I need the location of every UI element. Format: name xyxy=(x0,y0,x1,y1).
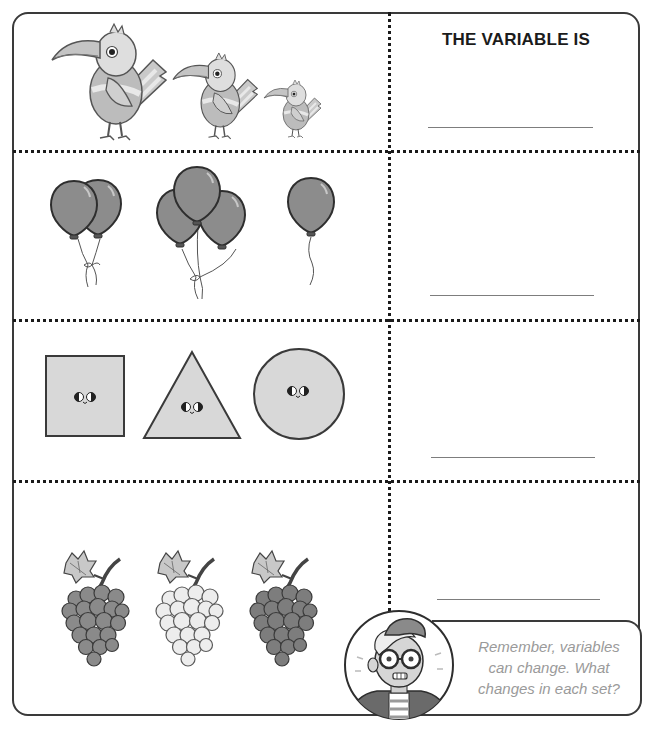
grapes-row-art xyxy=(50,545,330,675)
balloon-single-icon xyxy=(288,178,334,285)
avatar xyxy=(343,609,455,721)
column-divider xyxy=(388,12,391,612)
grape-bunch-dark-icon-2 xyxy=(250,551,317,666)
grape-bunch-light-icon xyxy=(156,551,223,666)
balloon-group-two-icon xyxy=(51,180,121,287)
balloon-group-three-icon xyxy=(157,167,245,299)
tip-line-2: can change. What xyxy=(454,657,644,678)
row-divider-2 xyxy=(13,319,640,322)
answer-line-balloons[interactable] xyxy=(430,295,594,296)
row-divider-3 xyxy=(13,480,640,483)
bird-medium-icon xyxy=(173,53,257,139)
triangle-shape-icon xyxy=(144,352,240,438)
row-divider-1 xyxy=(13,150,640,153)
birds-row-art xyxy=(40,18,370,143)
circle-shape-icon xyxy=(254,349,344,439)
answer-line-grapes[interactable] xyxy=(437,599,600,600)
square-shape-icon xyxy=(46,356,124,436)
tip-line-1: Remember, variables xyxy=(454,636,644,657)
bird-large-icon xyxy=(52,24,166,140)
grape-bunch-dark-icon-1 xyxy=(62,551,129,666)
tip-line-3: changes in each set? xyxy=(454,678,644,699)
variable-heading: THE VARIABLE IS xyxy=(392,30,640,50)
balloons-row-art xyxy=(40,165,360,305)
shapes-row-art xyxy=(40,340,360,450)
bird-small-icon xyxy=(264,80,321,138)
answer-line-birds[interactable] xyxy=(428,127,593,128)
tip-text: Remember, variables can change. What cha… xyxy=(454,636,644,699)
answer-line-shapes[interactable] xyxy=(431,457,595,458)
